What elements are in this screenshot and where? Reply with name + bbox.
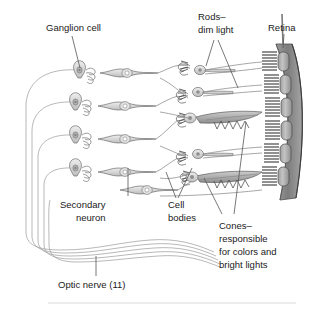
retina-diagram-figure: Ganglion cell Rods– dim light Retina Sec…: [0, 0, 314, 309]
label-secondary-line1: Secondary: [60, 199, 106, 210]
label-cones-line4: bright lights: [219, 259, 268, 270]
label-cones-line2: responsible: [219, 233, 268, 244]
label-optic-nerve: Optic nerve (11): [58, 279, 125, 290]
label-cones-line3: for colors and: [219, 246, 277, 257]
label-cones-line1: Cones–: [219, 220, 252, 231]
label-cell-bodies-line1: Cell: [168, 199, 184, 210]
label-secondary-line2: neuron: [76, 212, 106, 223]
label-ganglion-cell: Ganglion cell: [46, 22, 101, 33]
label-retina: Retina: [268, 22, 296, 33]
label-rods-line2: dim light: [198, 24, 234, 35]
diagram-canvas: Ganglion cell Rods– dim light Retina Sec…: [0, 0, 314, 309]
label-cell-bodies-line2: bodies: [168, 212, 196, 223]
label-rods-line1: Rods–: [198, 11, 226, 22]
